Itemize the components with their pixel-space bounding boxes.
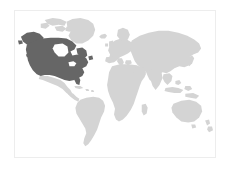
map-frame	[14, 10, 216, 158]
world-map-widget	[0, 0, 234, 172]
world-map-canvas[interactable]	[15, 11, 215, 157]
